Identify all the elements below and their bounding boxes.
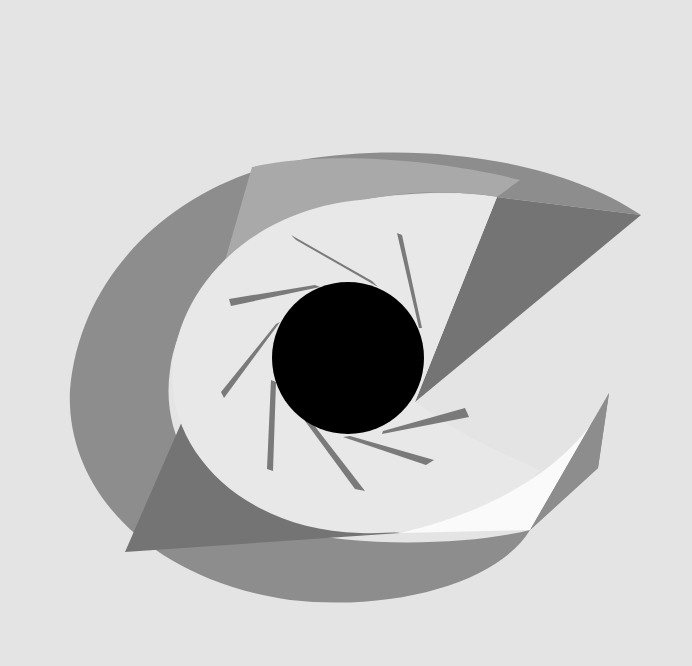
eye-artwork [0,0,692,666]
pupil [272,282,424,434]
